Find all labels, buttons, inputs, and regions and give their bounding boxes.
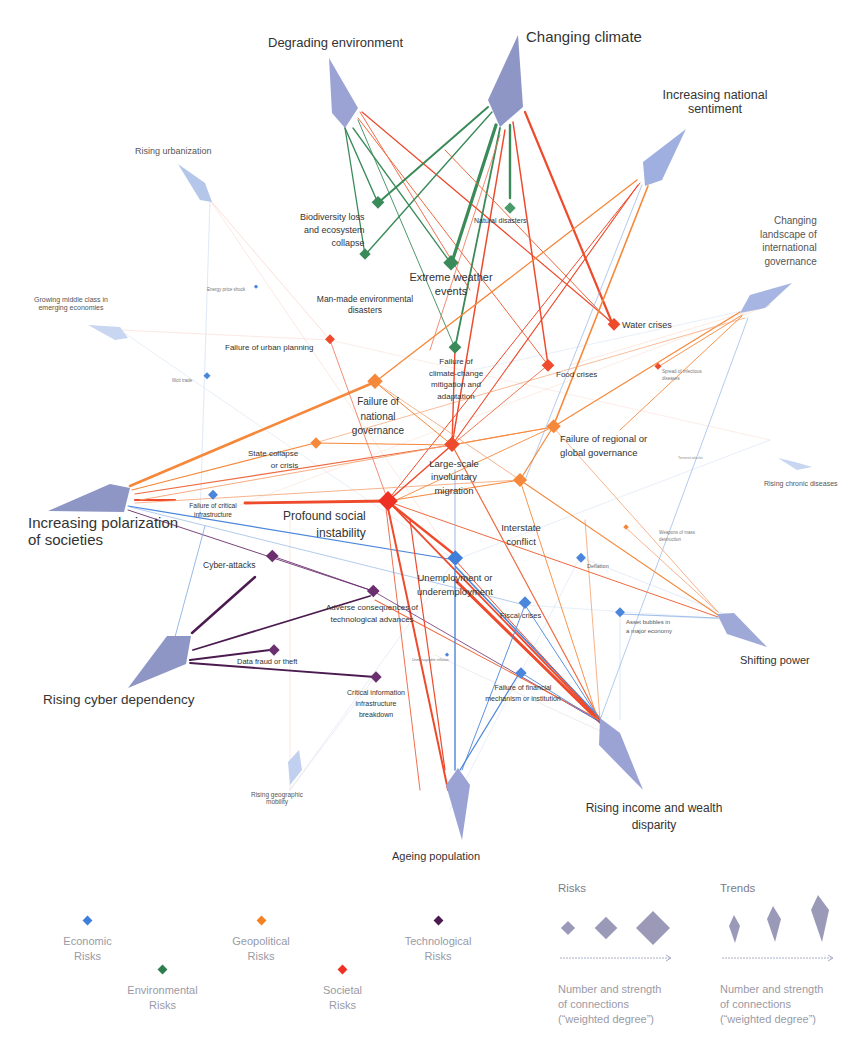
label-line: Man-made environmental [310, 294, 420, 305]
label-line: Biodiversity loss [300, 211, 365, 224]
label-line: events [408, 284, 494, 298]
trend-label-rising-urbanization: Rising urbanization [135, 146, 212, 156]
risk-diamond-deflation[interactable] [576, 553, 586, 563]
risk-diamond-fiscal-crises[interactable] [519, 596, 532, 609]
trend-shape-degrading-environment[interactable] [329, 58, 358, 128]
risk-diamond-asset-bubbles[interactable] [615, 607, 625, 617]
legend-economic: Economic Risks [55, 917, 120, 964]
risk-label-climate-failure: Failure of climate-change mitigation and… [416, 356, 496, 402]
legend-desc-line: Number and strength [720, 982, 850, 997]
risk-diamond-wmd[interactable] [623, 524, 629, 530]
risk-diamond-climate-failure[interactable] [449, 341, 462, 354]
trend-label-ageing-population: Ageing population [392, 850, 480, 863]
label-line: infrastructure [333, 699, 419, 710]
risk-label-illicit-trade: Illicit trade [172, 378, 192, 383]
risk-label-food-crises: Food crises [556, 370, 597, 379]
legend-desc-line: (“weighted degree”) [558, 1012, 688, 1027]
legend-geopolitical: Geopolitical Risks [225, 917, 297, 964]
risk-diamond-interstate-conflict[interactable] [513, 473, 527, 487]
label-line: disparity [574, 817, 734, 834]
risk-diamond-food-crises[interactable] [542, 359, 555, 372]
label-line: Failure of financial [470, 683, 576, 694]
risk-diamond-state-collapse[interactable] [310, 437, 321, 448]
risk-label-interstate-conflict: Interstate conflict [490, 521, 552, 549]
label-line: mitigation and [416, 379, 496, 391]
trend-label-national-sentiment: Increasing national sentiment [640, 88, 790, 117]
risk-diamond-inflation[interactable] [445, 653, 449, 657]
trend-shape-polarization[interactable] [48, 484, 130, 512]
trend-shape-cyber-dependency[interactable] [128, 636, 191, 688]
label-line: Critical information [333, 688, 419, 699]
risk-label-terrorist: Terrorist attacks [678, 456, 703, 460]
trend-shape-changing-climate[interactable] [488, 35, 523, 127]
trend-shape-intl-governance[interactable] [740, 283, 792, 313]
trend-shape-ageing-population[interactable] [446, 768, 470, 840]
geopolitical-diamond-icon [256, 916, 266, 926]
risk-label-natural-disasters: Natural disasters [474, 217, 527, 225]
technological-diamond-icon [433, 916, 443, 926]
legend-label: Societal [310, 983, 375, 998]
societal-diamond-icon [338, 965, 348, 975]
label-line: mechanism or institution [470, 694, 576, 705]
legend-trends-size: Trends Number and strength of connection… [720, 882, 850, 1027]
risk-label-critical-infrastructure: Failure of critical infrastructure [180, 502, 246, 520]
trend-shape-national-sentiment[interactable] [643, 129, 686, 186]
trend-shape-income-disparity[interactable] [599, 718, 643, 790]
legend-label: Risks [120, 998, 205, 1013]
label-line: or crisis [248, 460, 298, 472]
trend-label-cyber-dependency: Rising cyber dependency [43, 692, 195, 708]
legend-label: Economic [55, 934, 120, 949]
label-line: emerging economies [34, 304, 108, 312]
legend-desc-line: (“weighted degree”) [720, 1012, 850, 1027]
risk-label-critical-info: Critical information infrastructure brea… [333, 688, 419, 721]
risk-diamond-energy-shock[interactable] [254, 285, 258, 289]
label-line: Failure of [343, 395, 413, 410]
legend-risks-description: Number and strength of connections (“wei… [558, 982, 688, 1027]
label-line: Interstate [490, 521, 552, 535]
label-line: Changing [760, 214, 817, 228]
economic-diamond-icon [83, 916, 93, 926]
risk-diamond-regional-governance[interactable] [547, 419, 561, 433]
risk-label-financial-failure: Failure of financial mechanism or instit… [470, 683, 576, 704]
legend-societal: Societal Risks [310, 966, 375, 1013]
label-line: Failure of [416, 356, 496, 368]
label-line: Rising income and wealth [574, 800, 734, 817]
label-line: Large-scale [418, 457, 490, 470]
risk-label-social-instability: Profound social instability [283, 508, 366, 543]
label-line: Growing middle class in [34, 296, 108, 304]
risk-label-regional-governance: Failure of regional or global governance [560, 432, 647, 460]
legend-risks-size: Risks Number and strength of connections… [558, 882, 688, 1027]
risk-diamond-data-fraud[interactable] [268, 644, 279, 655]
risk-label-infectious: Spread of infectious diseases [662, 368, 702, 382]
label-line: collapse [300, 237, 365, 250]
legend-trends-description: Number and strength of connections (“wei… [720, 982, 850, 1027]
label-line: Increasing polarization [28, 514, 178, 531]
trend-label-changing-climate: Changing climate [526, 28, 642, 45]
environmental-diamond-icon [158, 965, 168, 975]
risk-diamond-cyber-attacks[interactable] [266, 550, 279, 563]
risk-label-energy-shock: Energy price shock [207, 287, 245, 292]
trend-shape-chronic-diseases[interactable] [778, 458, 812, 470]
label-line: instability [283, 525, 366, 542]
label-line: Asset bubbles in [626, 618, 672, 627]
connection-lines [128, 107, 748, 790]
risk-label-inflation: Unmanageable inflation [412, 658, 449, 662]
label-line: Extreme weather [408, 270, 494, 284]
trend-label-polarization: Increasing polarization of societies [28, 514, 178, 549]
trend-shape-rising-urbanization[interactable] [178, 164, 212, 202]
label-line: Increasing national [640, 88, 790, 102]
risk-diamond-natural-disasters[interactable] [504, 202, 515, 213]
legend-technological: Technological Risks [398, 917, 478, 964]
legend-environmental: Environmental Risks [120, 966, 205, 1013]
legend-label: Risks [55, 949, 120, 964]
label-line: governance [343, 424, 413, 439]
legend-label: Geopolitical [225, 934, 297, 949]
label-line: global governance [560, 446, 647, 460]
risk-label-extreme-weather: Extreme weather events [408, 270, 494, 299]
label-line: of societies [28, 531, 178, 548]
label-line: breakdown [333, 710, 419, 721]
label-line: mobility [242, 798, 312, 805]
trend-shape-shifting-power[interactable] [717, 613, 767, 647]
trend-shape-middle-class[interactable] [88, 325, 128, 340]
risk-label-state-collapse: State collapse or crisis [248, 448, 298, 473]
